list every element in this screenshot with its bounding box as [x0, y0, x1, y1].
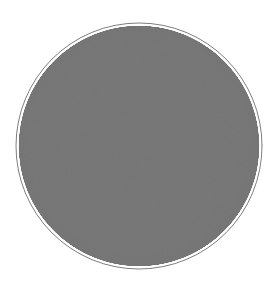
hyperbolic-tiling-figure: Order-3 heptagonal tiling {7,3} rendered… [0, 0, 277, 293]
hyperbolic-tiling-canvas [0, 0, 277, 293]
